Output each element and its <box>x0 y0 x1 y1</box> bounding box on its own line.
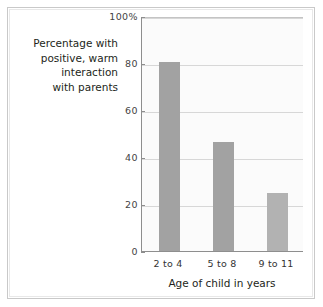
x-tick-label: 5 to 8 <box>192 258 252 269</box>
x-tick-label: 9 to 11 <box>246 258 306 269</box>
y-tick-mark <box>141 252 145 253</box>
bar <box>267 193 288 252</box>
y-tick-label: 0 <box>98 246 138 257</box>
x-axis-line <box>142 251 303 252</box>
y-tick-mark <box>141 111 145 112</box>
y-tick-label: 60 <box>98 105 138 116</box>
y-tick-mark <box>141 205 145 206</box>
x-axis-title: Age of child in years <box>141 277 303 289</box>
y-tick-label: 100% <box>98 11 138 22</box>
bar <box>159 62 180 252</box>
y-tick-label: 20 <box>98 199 138 210</box>
y-tick-label: 80 <box>98 58 138 69</box>
y-axis-tick-labels: 020406080100% <box>96 17 138 252</box>
chart-screenshot: Percentage with positive, warm interacti… <box>0 0 323 307</box>
x-tick-label: 2 to 4 <box>138 258 198 269</box>
gridline <box>142 18 303 19</box>
y-tick-mark <box>141 17 145 18</box>
y-tick-label: 40 <box>98 152 138 163</box>
y-tick-mark <box>141 64 145 65</box>
plot-area <box>141 17 303 252</box>
y-tick-mark <box>141 158 145 159</box>
bar <box>213 142 234 252</box>
